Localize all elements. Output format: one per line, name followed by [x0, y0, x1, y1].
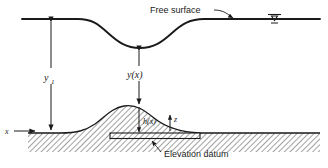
free-surface-leader-arrow	[214, 10, 233, 18]
open-channel-flow-figure: y 1 y(x) h(x) z x Free surface	[0, 0, 328, 168]
channel-bed	[28, 106, 320, 152]
elevation-datum-strip	[110, 133, 200, 139]
y1-label: y	[43, 72, 49, 83]
x-label: x	[4, 127, 9, 136]
datum-bar	[110, 133, 200, 139]
figure-canvas: y 1 y(x) h(x) z x Free surface	[0, 0, 328, 168]
yx-label: y(x)	[126, 69, 143, 81]
free-surface-label: Free surface	[150, 5, 201, 15]
free-surface-callout	[214, 10, 233, 18]
hx-label: h(x)	[143, 117, 156, 126]
y1-label-subscript: 1	[51, 78, 55, 86]
elevation-datum-label: Elevation datum	[164, 149, 229, 159]
z-label: z	[173, 115, 178, 124]
